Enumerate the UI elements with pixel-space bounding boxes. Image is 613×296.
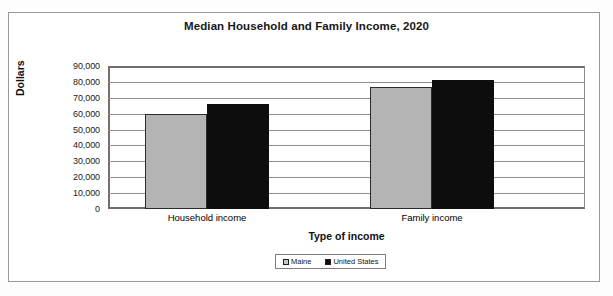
y-axis-tick: 60,000 [73,109,100,119]
legend-item-maine[interactable]: Maine [283,257,311,266]
y-axis-tick: 80,000 [73,77,100,87]
y-axis-tick: 30,000 [73,156,100,166]
chart-legend: MaineUnited States [275,254,386,269]
y-axis-tick: 70,000 [73,93,100,103]
legend-swatch-icon [283,259,289,265]
x-axis-label-spacer [494,212,557,223]
legend-swatch-icon [325,259,331,265]
legend-label: Maine [291,257,311,266]
y-axis-tick: 10,000 [73,188,100,198]
bar-maine-family-income[interactable] [370,87,432,209]
x-axis-category-label: Household income [145,212,269,223]
y-axis-tick: 40,000 [73,140,100,150]
bar-groups [108,66,585,209]
bar-group [370,66,494,209]
y-axis-tick: 0 [95,204,100,214]
x-axis-title: Type of income [108,230,585,242]
chart-page: Median Household and Family Income, 2020… [0,0,613,296]
y-axis-tick: 90,000 [73,61,100,71]
bar-united-states-family-income[interactable] [432,80,494,209]
bar-united-states-household-income[interactable] [207,104,269,209]
x-axis-category-label: Family income [370,212,494,223]
y-axis-tick: 20,000 [73,172,100,182]
legend-label: United States [333,257,378,266]
x-axis-label-spacer [269,212,370,223]
bar-group [145,66,269,209]
x-axis-label-spacer [108,212,145,223]
bar-maine-household-income[interactable] [145,114,207,209]
plot-left-margin [108,66,145,209]
plot-inter-group-gap [269,66,370,209]
plot-area-wrapper [108,66,585,209]
chart-title: Median Household and Family Income, 2020 [0,20,613,32]
y-axis-tick: 50,000 [73,125,100,135]
y-axis-title: Dollars [14,60,26,96]
plot-right-margin [494,66,557,209]
y-axis-tick-labels: 90,00080,00070,00060,00050,00040,00030,0… [40,58,104,217]
legend-item-united-states[interactable]: United States [325,257,378,266]
x-axis-category-labels: Household incomeFamily income [108,212,585,223]
